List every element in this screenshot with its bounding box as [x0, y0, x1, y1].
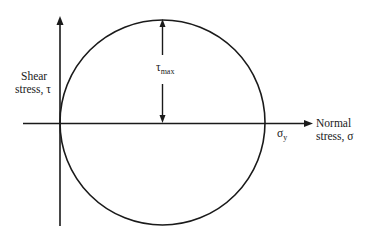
x-axis-label-line2: stress, σ — [316, 130, 354, 143]
x-axis-label: Normal stress, σ — [316, 117, 354, 143]
sigma-y-label: σy — [277, 127, 287, 141]
x-axis-label-line1: Normal — [316, 117, 354, 130]
tau-max-arrowhead-down — [160, 115, 166, 123]
tau-symbol: τ — [156, 61, 161, 73]
sigma-y-subscript: y — [283, 133, 287, 142]
y-axis-label: Shear stress, τ — [15, 70, 51, 96]
tau-max-subscript: max — [161, 67, 175, 76]
tau-max-label: τmax — [156, 61, 174, 75]
normal-axis-arrowhead — [304, 120, 313, 127]
y-axis-label-line1: Shear — [15, 70, 51, 83]
shear-axis-arrowhead — [57, 16, 64, 25]
y-axis-label-line2: stress, τ — [15, 83, 51, 96]
mohr-circle-diagram — [0, 0, 366, 238]
